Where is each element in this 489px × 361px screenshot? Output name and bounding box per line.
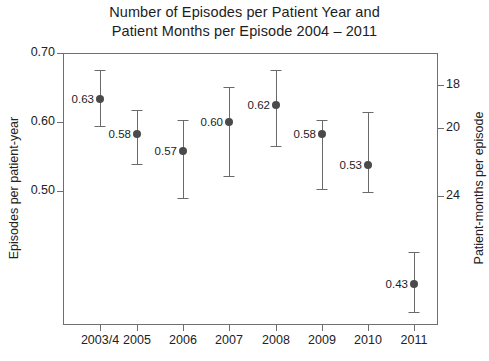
chart-title: Number of Episodes per Patient Year and … [0, 3, 489, 41]
error-bar-line [183, 120, 184, 198]
chart-figure: Number of Episodes per Patient Year and … [0, 0, 489, 361]
x-axis-tick-label: 2008 [262, 333, 290, 347]
x-axis-tick [137, 325, 138, 331]
data-point-marker [272, 101, 280, 109]
y-axis-left-tick [57, 53, 63, 54]
error-bar-cap-upper [95, 70, 106, 71]
x-axis-tick [229, 325, 230, 331]
x-axis-tick-label: 2003/4 [81, 333, 119, 347]
y-axis-right-tick-label: 24 [446, 188, 460, 202]
x-axis-tick [414, 325, 415, 331]
y-axis-left-tick [57, 122, 63, 123]
error-bar-cap-upper [363, 112, 374, 113]
data-point-marker [96, 95, 104, 103]
data-point-label: 0.62 [248, 99, 272, 111]
x-axis-tick [183, 325, 184, 331]
y-axis-right-tick [438, 85, 444, 86]
data-point-marker [410, 280, 418, 288]
x-axis-tick-label: 2006 [169, 333, 197, 347]
chart-title-line-1: Number of Episodes per Patient Year and [0, 3, 489, 22]
y-axis-right-tick [438, 196, 444, 197]
y-axis-right-tick [438, 128, 444, 129]
error-bar-cap-upper [224, 87, 235, 88]
error-bar-cap-lower [178, 198, 189, 199]
error-bar-cap-lower [271, 146, 282, 147]
data-point-label: 0.58 [109, 128, 133, 140]
error-bar-cap-lower [132, 164, 143, 165]
x-axis-tick-label: 2009 [308, 333, 336, 347]
data-point-marker [179, 147, 187, 155]
y-axis-title-right: Patient-months per episode [472, 88, 486, 288]
error-bar-cap-lower [224, 176, 235, 177]
error-bar-cap-lower [317, 189, 328, 190]
y-axis-left-tick-label: 0.70 [31, 45, 55, 59]
y-axis-title-left: Episodes per patient-year [7, 88, 21, 288]
data-point-marker [225, 118, 233, 126]
y-axis-left-tick [57, 191, 63, 192]
data-point-marker [364, 161, 372, 169]
error-bar-cap-lower [95, 126, 106, 127]
x-axis-tick-label: 2005 [123, 333, 151, 347]
plot-area [63, 53, 438, 325]
error-bar-line [368, 112, 369, 192]
error-bar-cap-lower [409, 312, 420, 313]
data-point-marker [133, 130, 141, 138]
error-bar-cap-upper [132, 110, 143, 111]
error-bar-cap-lower [363, 192, 374, 193]
data-point-label: 0.63 [72, 93, 96, 105]
data-point-marker [318, 130, 326, 138]
data-point-label: 0.43 [386, 278, 410, 290]
x-axis-tick [368, 325, 369, 331]
chart-title-line-2: Patient Months per Episode 2004 – 2011 [0, 22, 489, 41]
x-axis-tick [322, 325, 323, 331]
data-point-label: 0.53 [340, 159, 364, 171]
error-bar-cap-upper [271, 70, 282, 71]
y-axis-left-tick-label: 0.60 [31, 114, 55, 128]
data-point-label: 0.58 [294, 128, 318, 140]
data-point-label: 0.57 [155, 145, 179, 157]
error-bar-cap-upper [178, 120, 189, 121]
y-axis-right-tick-label: 18 [446, 77, 460, 91]
y-axis-right-tick-label: 20 [446, 120, 460, 134]
x-axis-tick [276, 325, 277, 331]
x-axis-tick-label: 2007 [215, 333, 243, 347]
x-axis-tick-label: 2011 [401, 333, 428, 347]
error-bar-cap-upper [409, 252, 420, 253]
x-axis-tick-label: 2010 [354, 333, 382, 347]
error-bar-cap-upper [317, 120, 328, 121]
error-bar-line [229, 87, 230, 176]
y-axis-left-tick-label: 0.50 [31, 183, 55, 197]
data-point-label: 0.60 [201, 116, 225, 128]
x-axis-tick [100, 325, 101, 331]
